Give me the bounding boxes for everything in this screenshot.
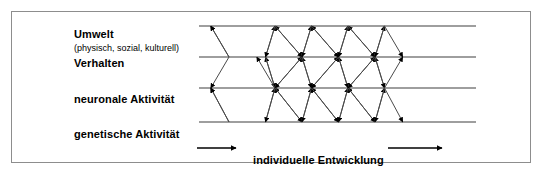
level-sublabel-umwelt: (physisch, sozial, kulturell) — [74, 44, 179, 53]
level-label-verhalten: Verhalten — [74, 58, 124, 69]
diagram-canvas: Umwelt (physisch, sozial, kulturell) Ver… — [0, 0, 542, 174]
diagram-frame: Umwelt (physisch, sozial, kulturell) Ver… — [11, 11, 531, 163]
level-label-genetische-aktivitaet: genetische Aktivität — [74, 129, 180, 140]
level-label-umwelt: Umwelt — [74, 29, 114, 40]
level-label-neuronale-aktivitaet: neuronale Aktivität — [74, 94, 175, 105]
axis-label-individuelle-entwicklung: individuelle Entwicklung — [253, 155, 384, 166]
